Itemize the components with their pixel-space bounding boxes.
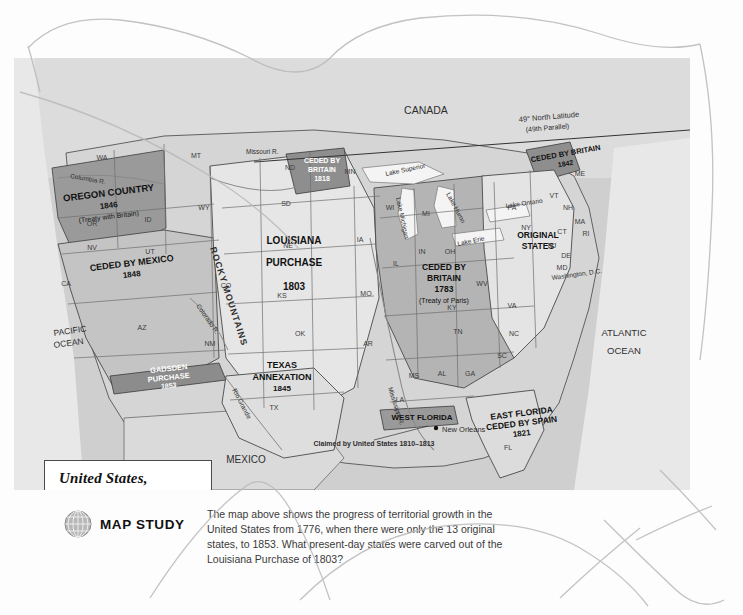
label-atlantic-1: ATLANTIC [601,327,646,338]
label-britain1783-3: 1783 [435,284,454,294]
map-study-block: MAP STUDY The map above shows the progre… [63,505,703,600]
svg-text:UT: UT [145,248,155,255]
svg-text:IN: IN [419,248,426,255]
label-original-1: ORIGINAL [517,230,559,240]
map-figure: OREGON COUNTRY 1846 (Treaty with Britain… [14,58,690,490]
label-texas-1: TEXAS [267,360,297,370]
svg-text:PA: PA [508,204,517,211]
svg-text:IA: IA [357,236,364,243]
svg-text:OR: OR [87,220,98,227]
svg-text:CT: CT [557,228,567,235]
label-texas-2: ANNEXATION [253,372,312,382]
label-mexico: MEXICO [226,454,266,465]
label-texas-3: 1845 [273,384,291,393]
svg-text:MA: MA [575,218,586,225]
svg-text:KY: KY [447,304,457,311]
svg-text:MT: MT [191,152,202,159]
label-louisiana-2: PURCHASE [266,257,322,268]
svg-text:NM: NM [205,340,216,347]
svg-text:NH: NH [563,204,573,211]
svg-text:KS: KS [277,292,287,299]
globe-icon [63,509,93,539]
map-study-text: The map above shows the progress of terr… [207,507,507,567]
svg-text:MN: MN [345,168,356,175]
svg-text:AR: AR [363,340,373,347]
svg-text:VA: VA [508,302,517,309]
map-study-heading: MAP STUDY [63,509,185,539]
label-britain1783-1: CEDED BY [422,262,466,272]
label-britain1818-2: BRITAIN [308,166,336,173]
svg-text:WI: WI [386,204,395,211]
svg-text:OH: OH [445,248,456,255]
svg-text:IL: IL [393,260,399,267]
label-canada: CANADA [404,104,448,116]
label-new-orleans: New Orleans [442,425,486,434]
label-britain1818-3: 1818 [314,175,330,182]
label-britain1818-1: CEDED BY [304,157,341,164]
svg-text:OK: OK [295,330,305,337]
svg-text:AZ: AZ [138,324,148,331]
svg-text:DE: DE [561,252,571,259]
svg-text:CA: CA [61,280,71,287]
svg-text:AL: AL [438,370,447,377]
svg-text:NY: NY [521,224,531,231]
svg-text:SC: SC [497,352,507,359]
svg-text:ID: ID [145,216,152,223]
map-graphic: OREGON COUNTRY 1846 (Treaty with Britain… [14,58,690,490]
map-title-box: United States, 1776–1853 [44,460,212,490]
svg-text:CO: CO [221,282,232,289]
map-study-title: MAP STUDY [100,517,185,532]
label-britain1783-2: BRITAIN [427,273,461,283]
city-dot-new-orleans [434,426,438,430]
svg-text:NV: NV [87,244,97,251]
map-title-line2: 1776–1853 [59,488,211,490]
svg-text:NE: NE [283,242,293,249]
svg-text:TN: TN [453,328,462,335]
svg-text:WA: WA [96,154,107,161]
svg-text:ND: ND [285,164,295,171]
map-title-line1: United States, [59,469,211,488]
svg-text:TX: TX [270,404,279,411]
svg-text:MS: MS [409,372,420,379]
svg-text:ME: ME [575,170,586,177]
label-britain1783-4: (Treaty of Paris) [419,297,469,305]
svg-text:MO: MO [360,290,372,297]
svg-text:WV: WV [476,280,488,287]
label-atlantic-2: OCEAN [607,345,641,356]
label-missouri-river: Missouri R. [246,148,279,155]
svg-text:NC: NC [509,330,519,337]
label-louisiana-3: 1803 [283,281,306,292]
textbook-page: OREGON COUNTRY 1846 (Treaty with Britain… [0,0,743,615]
label-louisiana-1: LOUISIANA [267,235,322,246]
svg-text:LA: LA [396,396,405,403]
svg-text:WY: WY [198,204,210,211]
svg-text:RI: RI [583,230,590,237]
svg-text:GA: GA [465,370,475,377]
label-claimed-note: Claimed by United States 1810–1813 [313,440,434,448]
svg-text:NJ: NJ [548,242,557,249]
svg-text:MD: MD [557,264,568,271]
svg-text:FL: FL [504,444,512,451]
svg-text:VT: VT [550,192,560,199]
svg-text:MI: MI [422,210,430,217]
svg-text:SD: SD [281,200,291,207]
